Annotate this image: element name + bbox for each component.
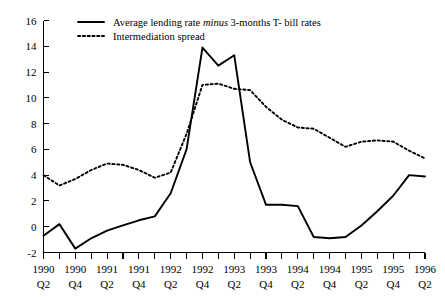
x-tick-label-quarter: Q2 [228, 278, 241, 290]
x-tick-label-quarter: Q4 [196, 278, 210, 290]
y-tick-label: 0 [31, 221, 37, 233]
x-tick-label-year: 1993 [223, 263, 246, 275]
x-axis: 1990Q21990Q41991Q21991Q41992Q21992Q41993… [33, 253, 437, 290]
x-tick-label-year: 1995 [350, 263, 373, 275]
y-tick-label: 2 [31, 195, 37, 207]
x-tick-label-year: 1994 [319, 263, 342, 275]
x-tick-label-year: 1992 [191, 263, 213, 275]
y-tick-label: 14 [26, 40, 38, 52]
y-tick-label: 12 [26, 66, 37, 78]
line-chart: -20246810121416 1990Q21990Q41991Q21991Q4… [0, 0, 445, 297]
x-tick-label-quarter: Q4 [69, 278, 83, 290]
y-tick-label: 16 [26, 15, 38, 27]
chart-container: -20246810121416 1990Q21990Q41991Q21991Q4… [0, 0, 445, 297]
x-tick-label-year: 1994 [287, 263, 310, 275]
x-tick-label-quarter: Q2 [418, 278, 431, 290]
x-tick-label-quarter: Q4 [323, 278, 337, 290]
x-tick-label-quarter: Q4 [386, 278, 400, 290]
y-tick-label: 6 [31, 143, 37, 155]
x-tick-label-year: 1992 [160, 263, 182, 275]
x-tick-label-quarter: Q2 [291, 278, 304, 290]
x-tick-label-year: 1991 [96, 263, 118, 275]
y-tick-label: 8 [31, 118, 37, 130]
x-tick-label-quarter: Q2 [164, 278, 177, 290]
chart-series-group [44, 48, 426, 249]
x-tick-label-year: 1990 [64, 263, 87, 275]
x-tick-label-quarter: Q2 [37, 278, 50, 290]
y-tick-label: -2 [27, 247, 36, 259]
x-tick-label-year: 1993 [255, 263, 278, 275]
series-line-1 [44, 48, 426, 249]
x-tick-label-quarter: Q4 [259, 278, 273, 290]
legend-label-1: Average lending rate minus 3-months T- b… [113, 17, 321, 28]
x-tick-label-year: 1996 [414, 263, 437, 275]
y-axis: -20246810121416 [26, 15, 49, 259]
y-tick-label: 4 [31, 169, 37, 181]
chart-legend: Average lending rate minus 3-months T- b… [78, 17, 321, 42]
legend-label-2: Intermediation spread [113, 31, 206, 42]
series-line-2 [44, 84, 426, 186]
x-tick-label-year: 1990 [33, 263, 56, 275]
y-tick-label: 10 [26, 92, 38, 104]
x-tick-label-quarter: Q2 [355, 278, 368, 290]
x-tick-label-year: 1995 [382, 263, 405, 275]
x-tick-label-year: 1991 [128, 263, 150, 275]
x-tick-label-quarter: Q4 [132, 278, 146, 290]
x-tick-label-quarter: Q2 [100, 278, 113, 290]
